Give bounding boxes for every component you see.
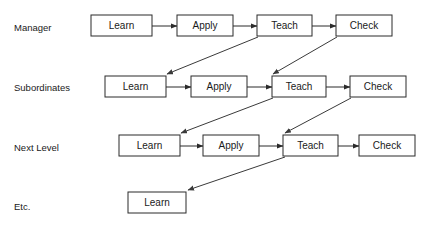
nodes-layer: LearnApplyTeachCheckLearnApplyTeachCheck… — [91, 15, 415, 213]
process-node-label: Teach — [271, 20, 298, 31]
process-node-apply[interactable]: Apply — [191, 76, 247, 97]
row-labels: Manager Subordinates Next Level Etc. — [14, 22, 70, 212]
process-node-check[interactable]: Check — [336, 15, 392, 36]
process-node-learn[interactable]: Learn — [128, 192, 186, 213]
process-node-label: Learn — [109, 20, 135, 31]
process-node-label: Apply — [218, 140, 243, 151]
flow-arrow-cascade — [181, 98, 273, 133]
process-node-label: Learn — [123, 81, 149, 92]
process-node-teach[interactable]: Teach — [257, 15, 312, 36]
flow-arrow-cascade — [167, 37, 258, 74]
row-label-etc: Etc. — [14, 201, 30, 212]
flow-arrow-cascade — [188, 157, 285, 190]
process-node-learn[interactable]: Learn — [91, 15, 152, 36]
process-node-apply[interactable]: Apply — [177, 15, 233, 36]
row-label-subordinates: Subordinates — [14, 82, 70, 93]
process-node-check[interactable]: Check — [350, 76, 406, 97]
process-node-label: Check — [350, 20, 379, 31]
process-node-check[interactable]: Check — [359, 135, 415, 156]
process-node-label: Learn — [144, 197, 170, 208]
process-node-teach[interactable]: Teach — [272, 76, 326, 97]
process-node-teach[interactable]: Teach — [283, 135, 338, 156]
connectors-layer — [152, 26, 359, 190]
process-node-learn[interactable]: Learn — [119, 135, 180, 156]
process-node-label: Apply — [206, 81, 231, 92]
process-node-apply[interactable]: Apply — [203, 135, 259, 156]
flow-arrow-cascade — [273, 37, 337, 74]
process-node-label: Check — [364, 81, 393, 92]
process-node-label: Teach — [286, 81, 313, 92]
row-label-manager: Manager — [14, 22, 52, 33]
diagram-root: Manager Subordinates Next Level Etc. Lea… — [0, 0, 428, 233]
flow-arrow-cascade — [285, 98, 351, 133]
process-node-label: Learn — [137, 140, 163, 151]
process-node-label: Check — [373, 140, 402, 151]
process-flow-diagram: Manager Subordinates Next Level Etc. Lea… — [0, 0, 428, 233]
process-node-learn[interactable]: Learn — [105, 76, 166, 97]
row-label-next-level: Next Level — [14, 142, 59, 153]
process-node-label: Apply — [192, 20, 217, 31]
process-node-label: Teach — [297, 140, 324, 151]
